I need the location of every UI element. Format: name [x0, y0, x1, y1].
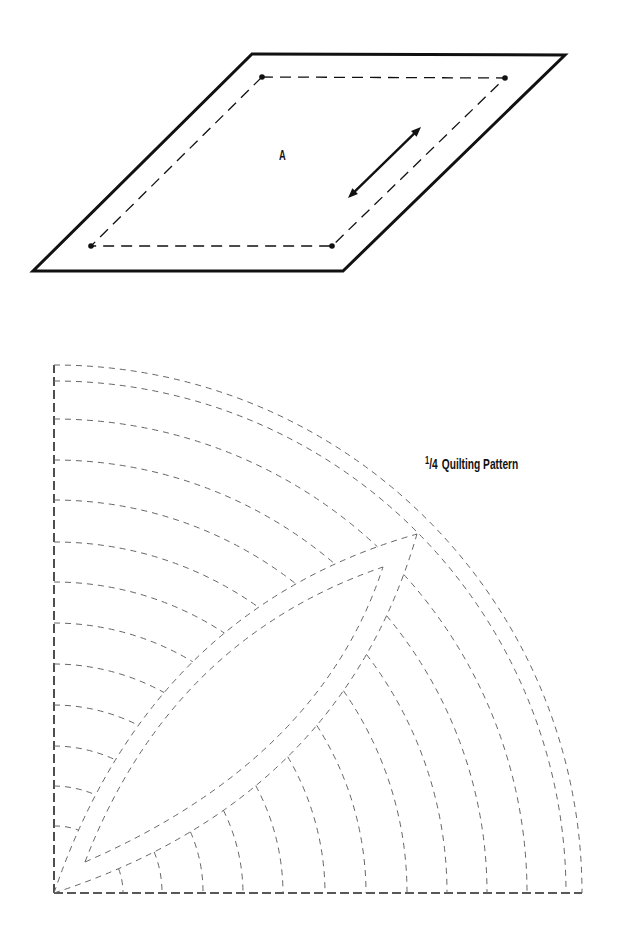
- left-arc: [54, 826, 79, 830]
- title-fraction: 1/4: [425, 455, 438, 472]
- bottom-arc: [119, 869, 123, 893]
- left-arc: [54, 705, 138, 725]
- left-arc: [54, 623, 193, 662]
- bottom-arc: [223, 810, 243, 893]
- pattern-border: [54, 365, 582, 893]
- fraction-numerator: 1: [425, 454, 429, 466]
- seam-corner-dots: [88, 74, 508, 249]
- leaf-inner-lower: [85, 567, 383, 862]
- leaf-inner-upper: [85, 567, 383, 862]
- piece-label: A: [279, 146, 286, 163]
- left-arcs: [54, 419, 377, 830]
- bottom-arc: [190, 832, 203, 893]
- bottom-arc: [288, 757, 325, 893]
- seam-dot: [502, 75, 508, 81]
- bottom-arc: [343, 691, 407, 893]
- seam-dot: [329, 243, 335, 249]
- template-piece-a: [33, 54, 565, 271]
- piece-seam-line: [91, 77, 505, 246]
- bottom-arc: [366, 654, 447, 893]
- fraction-denominator: 4: [432, 455, 438, 472]
- bottom-arcs: [119, 574, 527, 893]
- bottom-arc: [387, 616, 487, 893]
- left-arc: [54, 664, 164, 693]
- seam-dot: [88, 243, 94, 249]
- piece-outer-outline: [33, 54, 565, 271]
- left-arc: [54, 746, 115, 760]
- left-arc: [54, 460, 335, 564]
- bottom-arc: [404, 574, 527, 893]
- quarter-quilting-pattern: [54, 365, 582, 893]
- outer-arcs: [54, 365, 582, 893]
- left-arc: [54, 542, 259, 607]
- left-arc: [54, 582, 224, 633]
- outer-arc: [54, 365, 582, 893]
- grain-line-arrow-icon: [348, 127, 421, 198]
- left-arc: [54, 786, 96, 795]
- pattern-title: 1/4Quilting Pattern: [425, 454, 518, 472]
- seam-dot: [259, 74, 265, 80]
- left-arc: [54, 419, 377, 547]
- title-text: Quilting Pattern: [442, 455, 519, 472]
- bottom-arc: [256, 786, 283, 893]
- bottom-arc: [317, 725, 366, 893]
- pattern-canvas: [0, 0, 620, 938]
- bottom-arc: [154, 852, 162, 893]
